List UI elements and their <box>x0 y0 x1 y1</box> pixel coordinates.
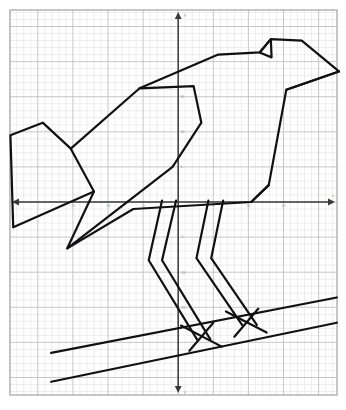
coordinate-plane-svg: -15-10-55101515105-5-10-15 x y y <box>0 0 346 410</box>
y-axis-tick-label: 15 <box>180 95 184 99</box>
y-axis-tick-label: 10 <box>180 130 184 134</box>
y-axis-tick-label: -10 <box>180 271 185 275</box>
y-axis-tick-label: -15 <box>180 306 185 310</box>
x-axis-tick-label: 15 <box>282 204 286 208</box>
y-axis-label-bottom: y <box>184 390 186 394</box>
y-axis-tick-label: -5 <box>180 235 183 239</box>
y-axis-tick-label: 5 <box>180 165 182 169</box>
x-axis-tick-label: -10 <box>106 204 111 208</box>
coordinate-plane-figure: -15-10-55101515105-5-10-15 x y y <box>0 0 346 410</box>
y-axis-label: y <box>184 13 186 17</box>
x-axis-tick-label: -15 <box>70 204 75 208</box>
x-axis-tick-label: 10 <box>247 204 251 208</box>
x-axis-label: x <box>332 194 334 198</box>
